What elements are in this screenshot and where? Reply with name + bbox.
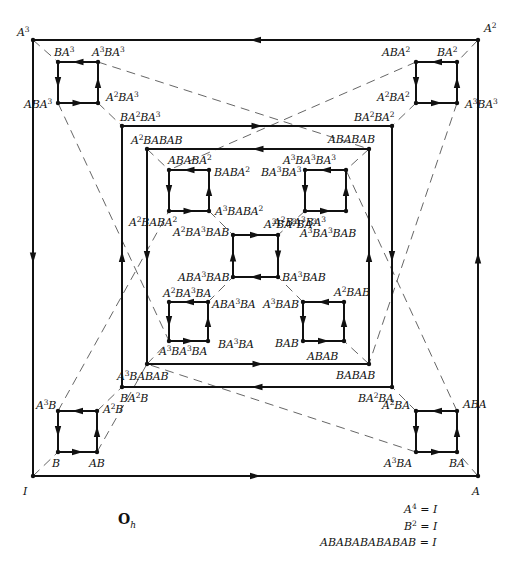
vertex-dot: [120, 124, 124, 128]
vertex-dot: [167, 300, 171, 304]
vertex-dot: [56, 450, 60, 454]
vertex-label-outer-bl: I: [23, 486, 27, 497]
arrow-icon: [366, 251, 372, 262]
vertex-label-corner-tl-tl: BA3: [54, 46, 74, 58]
vertex-dot: [56, 101, 60, 105]
vertex-label-corner-tl-bl: ABA3: [24, 98, 52, 110]
vertex-dot: [96, 60, 100, 64]
vertex-label-center-bl: ABA3BAB: [178, 271, 229, 283]
vertex-label-inner-tl-bl: A2BABA2: [129, 216, 177, 228]
vertex-label-inner-tr: ABABAB: [328, 134, 375, 145]
arrow-icon: [454, 426, 460, 437]
vertex-label-corner-br-tr: ABA: [463, 399, 486, 410]
vertex-dot: [206, 339, 210, 343]
vertex-label-middle-tr: BA2BA2: [354, 111, 394, 123]
arrow-icon: [250, 37, 261, 43]
vertex-label-inner-br: BABAB: [336, 370, 375, 381]
arrow-icon: [300, 316, 306, 327]
vertex-dot: [167, 168, 171, 172]
arrow-icon: [389, 251, 395, 262]
vertex-label-inner-br-br: ABAB: [307, 351, 338, 362]
arrow-icon: [55, 426, 61, 437]
vertex-dot: [301, 300, 305, 304]
vertex-label-corner-tr-tl: ABA2: [382, 46, 410, 58]
relation-2: ABABABABABAB = I: [320, 537, 437, 548]
vertex-label-outer-br: A: [472, 486, 480, 497]
arrow-icon: [475, 253, 481, 264]
vertex-dot: [96, 101, 100, 105]
vertex-dot: [31, 474, 35, 478]
arrow-icon: [30, 253, 36, 264]
b-edge-dashed: [392, 103, 416, 126]
vertex-dot: [367, 362, 371, 366]
dashed-b-edges: [33, 40, 478, 476]
vertex-label-corner-bl-tr: A2B: [103, 403, 123, 415]
vertex-label-corner-tr-bl: A2BA2: [377, 91, 410, 103]
vertex-dot: [476, 38, 480, 42]
b-edge-dashed: [98, 103, 122, 126]
cayley-diagram: A3A2IABA2BA3BA2BA2BA2BBA2BAA2BABABABABAB…: [0, 0, 517, 568]
vertex-label-inner-br-tr: A2BAB: [334, 286, 370, 298]
vertex-dot: [344, 209, 348, 213]
arrow-icon: [55, 77, 61, 88]
arrow-icon: [73, 100, 84, 106]
vertex-dot: [231, 275, 235, 279]
arrow-icon: [250, 473, 261, 479]
arrow-icon: [206, 185, 212, 196]
arrow-icon: [73, 59, 84, 65]
arrow-icon: [166, 185, 172, 196]
vertices: [31, 38, 480, 478]
vertex-label-inner-tl: A2BABAB: [131, 134, 182, 146]
arrow-icon: [341, 316, 347, 327]
arrow-icon: [431, 59, 442, 65]
vertex-dot: [455, 60, 459, 64]
vertex-dot: [414, 60, 418, 64]
vertex-dot: [455, 450, 459, 454]
arrow-icon: [166, 316, 172, 327]
arrow-icon: [253, 146, 264, 152]
b-edge-dashed: [344, 341, 369, 364]
vertex-label-center-br: BA3BAB: [282, 271, 326, 283]
b-edge-dashed: [457, 40, 478, 62]
vertex-dot: [344, 168, 348, 172]
vertex-label-inner-tr-tr: A3BA3BA3: [283, 154, 336, 166]
arrow-icon: [72, 408, 83, 414]
arrow-icon: [184, 167, 195, 173]
arrow-icon: [318, 338, 329, 344]
vertex-dot: [207, 168, 211, 172]
vertex-dot: [342, 339, 346, 343]
cayley-graph-svg: [0, 0, 517, 568]
vertex-label-inner-tl-br: A3BABA2: [215, 205, 263, 217]
arrow-icon: [95, 77, 101, 88]
vertex-label-middle-tl: BA2BA3: [120, 111, 160, 123]
arrow-icon: [205, 316, 211, 327]
arrow-icon: [343, 185, 349, 196]
vertex-label-outer-tl: A3: [17, 26, 29, 38]
vertex-dot: [206, 300, 210, 304]
arrow-icon: [252, 384, 263, 390]
vertex-label-corner-br-bl: A3BA: [384, 457, 412, 469]
vertex-dot: [276, 233, 280, 237]
vertex-label-corner-tr-tr: BA2: [437, 46, 457, 58]
b-edge-dashed: [147, 364, 416, 452]
vertex-dot: [414, 101, 418, 105]
arrow-icon: [72, 449, 83, 455]
vertex-label-inner-tl-tl: ABABA2: [168, 154, 212, 166]
arrow-icon: [250, 274, 261, 280]
vertex-label-inner-bl-tr: ABA3BA: [212, 298, 256, 310]
vertex-dot: [145, 362, 149, 366]
relation-1: B2 = I: [404, 520, 437, 532]
vertex-label-inner-tr-tl: BA3BA3: [261, 166, 301, 178]
arrow-icon: [320, 167, 331, 173]
vertex-label-center-tl: A2BA3BAB: [173, 226, 229, 238]
arrow-icon: [230, 251, 236, 262]
relation-0: A4 = I: [404, 503, 437, 515]
b-edge-dashed: [147, 149, 169, 170]
vertex-dot: [390, 124, 394, 128]
vertex-dot: [95, 409, 99, 413]
vertex-dot: [31, 38, 35, 42]
arrow-icon: [413, 426, 419, 437]
vertex-dot: [207, 209, 211, 213]
vertex-dot: [56, 60, 60, 64]
vertex-dot: [167, 209, 171, 213]
